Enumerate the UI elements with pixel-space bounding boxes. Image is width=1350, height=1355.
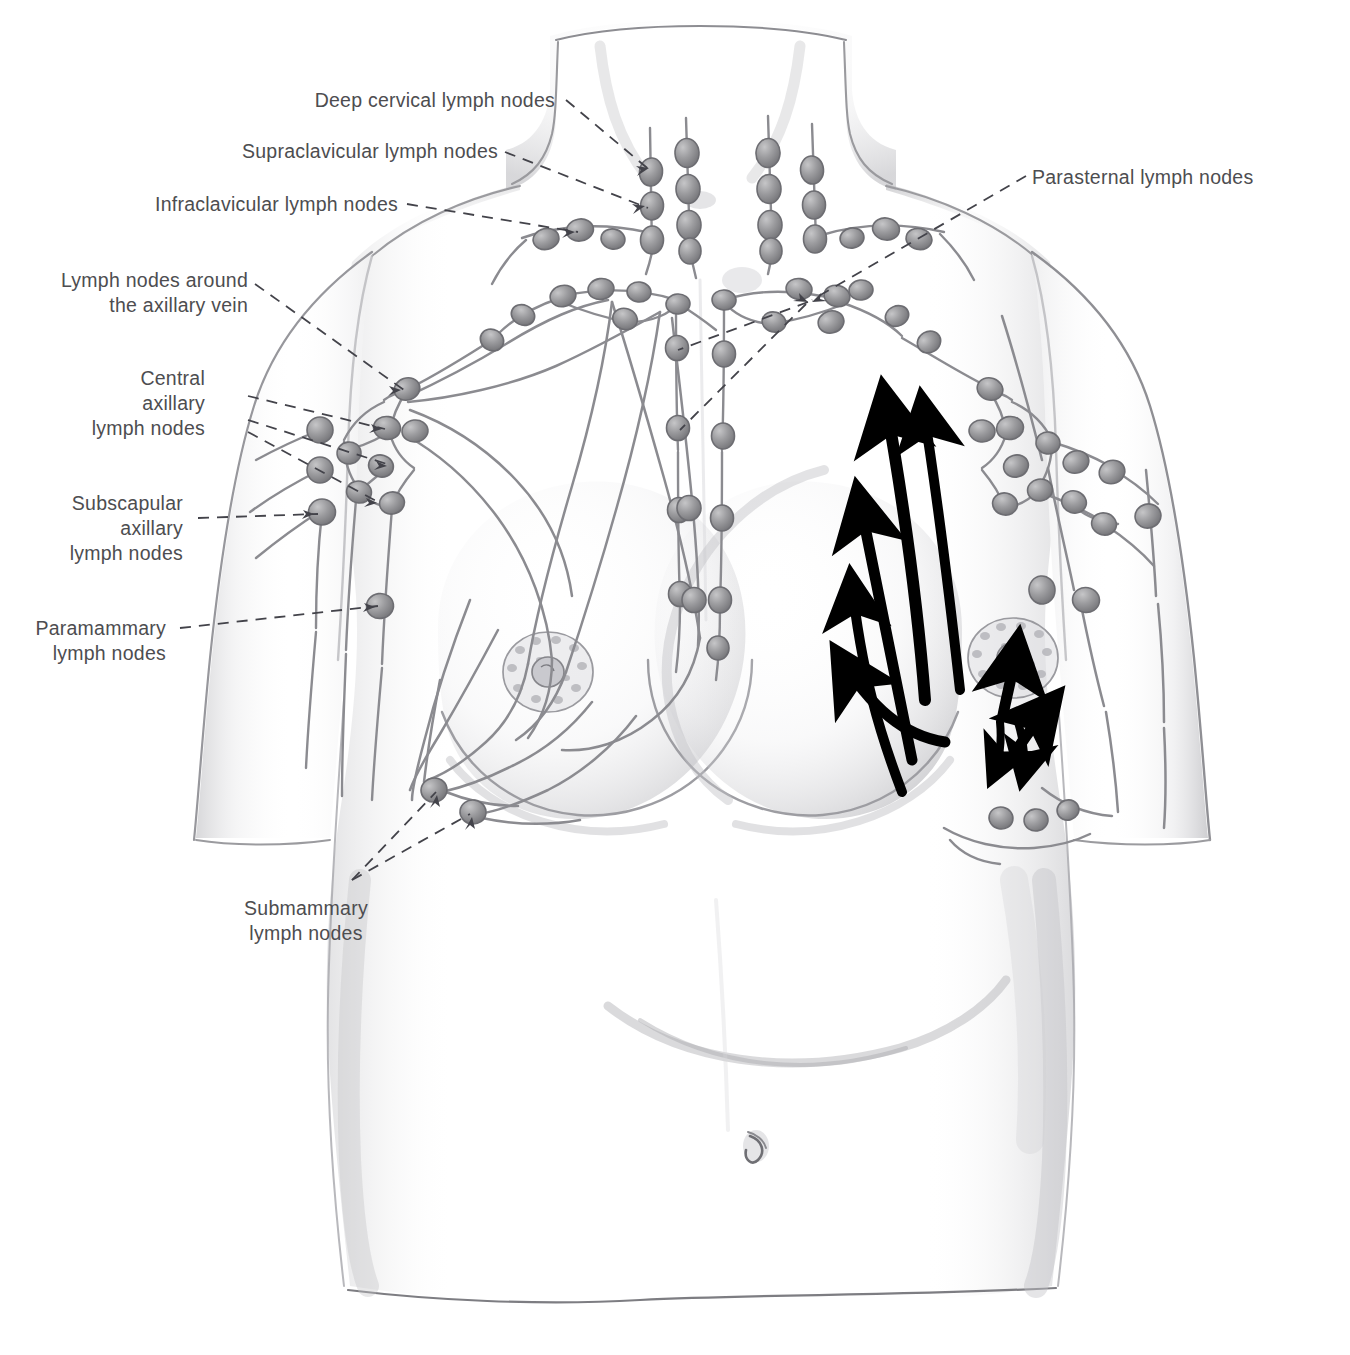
label-axillary-vein: Lymph nodes aroundthe axillary vein (0, 268, 248, 318)
label-paramammary: Paramammarylymph nodes (0, 616, 166, 666)
label-subscapular-axillary: Subscapularaxillarylymph nodes (0, 491, 183, 566)
label-parasternal: Parasternal lymph nodes (1032, 165, 1350, 190)
label-infraclavicular: Infraclavicular lymph nodes (0, 192, 398, 217)
figure-canvas: Deep cervical lymph nodes Supraclavicula… (0, 0, 1350, 1355)
label-deep-cervical: Deep cervical lymph nodes (135, 88, 555, 113)
label-central-axillary: Centralaxillarylymph nodes (0, 366, 205, 441)
label-supraclavicular: Supraclavicular lymph nodes (78, 139, 498, 164)
label-submammary: Submammarylymph nodes (186, 896, 426, 946)
node-midchest-a (677, 496, 701, 521)
node-midchest-b (682, 588, 706, 613)
